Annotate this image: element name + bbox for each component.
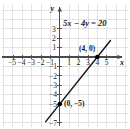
equation-annotation: 5x − 4y = 20 [63,19,107,28]
y-tick-label-minus5: −5 [49,101,57,109]
y-tick-label-minus2: −2 [49,73,57,81]
x-tick-label-4: 4 [95,59,99,67]
y-tick-label-2: 2 [52,35,56,43]
y-tick-label-minus7: −7 [49,120,57,128]
x-tick-label-2: 2 [77,59,81,67]
x-tick-label-1: 1 [67,59,71,67]
x-tick-label-3: 3 [86,59,90,67]
point-label-x-intercept: (4, 0) [79,45,95,53]
graph-figure: −5 −4 −3 −2 −1 1 2 3 4 5 3 2 1 −1 −2 −3 … [0,0,130,129]
y-tick-label-minus1: −1 [49,63,57,71]
x-tick-label-minus2: −2 [37,59,45,67]
y-tick-label-1: 1 [53,44,57,52]
y-axis-label: y [51,5,55,13]
y-tick-label-3: 3 [52,26,56,34]
x-tick-label-5: 5 [105,59,109,67]
y-tick-label-minus3: −3 [49,82,57,90]
point-label-y-intercept: (0, −5) [64,100,85,108]
x-axis-label: x [120,59,124,67]
y-tick-label-minus4: −4 [49,91,57,99]
point-y-intercept [58,102,63,107]
x-tick-label-minus3: −3 [27,59,35,67]
x-tick-label-minus5: −5 [8,59,16,67]
y-axis-arrow [58,7,62,12]
x-tick-label-minus4: −4 [18,59,26,67]
